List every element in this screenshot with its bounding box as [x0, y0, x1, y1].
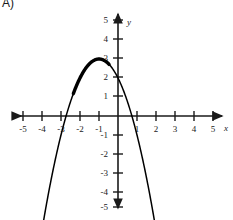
parabola-curve [42, 59, 156, 220]
y-tick-label-neg3: -3 [101, 168, 109, 178]
x-axis-label: x [223, 123, 228, 133]
y-tick-label-neg2: -2 [101, 149, 109, 159]
x-tick-label-3: 3 [173, 124, 178, 134]
y-tick-label-5: 5 [104, 15, 109, 25]
y-tick-label-neg4: -4 [101, 187, 109, 197]
y-tick-label-neg1: -1 [101, 130, 109, 140]
y-tick-label-neg5: -5 [101, 202, 109, 212]
x-tick-label-2: 2 [154, 124, 159, 134]
y-tick-label-1: 1 [104, 91, 109, 101]
x-tick-label-neg2: -2 [76, 124, 84, 134]
y-axis-label: y [126, 17, 131, 27]
x-tick-label-4: 4 [192, 124, 197, 134]
y-tick-label-2: 2 [104, 72, 109, 82]
x-tick-label-neg4: -4 [38, 124, 46, 134]
x-tick-label-5: 5 [211, 124, 216, 134]
coordinate-plane: -5 -4 -3 -2 -1 1 2 3 4 5 5 4 3 2 1 -1 -2… [0, 0, 233, 220]
x-tick-label-neg5: -5 [19, 124, 27, 134]
y-tick-label-4: 4 [104, 34, 109, 44]
graph-canvas: A) [0, 0, 233, 220]
